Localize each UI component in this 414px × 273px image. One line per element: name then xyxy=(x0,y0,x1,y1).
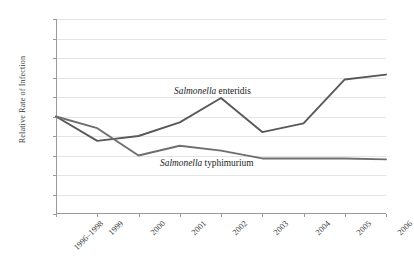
series-label-salmonella-typhimurium: Salmonella typhimurium xyxy=(160,158,254,168)
y-axis-title: Relative Rate of Infection xyxy=(18,20,27,180)
plot-area: 21.81.61.41.210.80.60.40.20 1996–1998199… xyxy=(56,19,386,214)
x-tick-mark xyxy=(97,214,98,217)
x-tick-label: 1996–1998 xyxy=(72,219,105,252)
series-line-salmonella-enteridis xyxy=(56,75,386,141)
x-tick-label: 2001 xyxy=(190,219,208,237)
x-tick-mark xyxy=(180,214,181,217)
x-tick-label: 2004 xyxy=(313,219,331,237)
x-tick-mark xyxy=(262,214,263,217)
x-tick-mark xyxy=(139,214,140,217)
x-tick-mark xyxy=(386,214,387,217)
x-tick-mark xyxy=(345,214,346,217)
x-tick-label: 2002 xyxy=(231,219,249,237)
x-tick-mark xyxy=(56,214,57,217)
series-label-salmonella-enteridis: Salmonella enteridis xyxy=(174,86,251,96)
x-tick-label: 2005 xyxy=(355,219,373,237)
x-tick-label: 2003 xyxy=(272,219,290,237)
x-tick-label: 2000 xyxy=(148,219,166,237)
series-line-salmonella-typhimurium xyxy=(56,117,386,160)
series-lines xyxy=(56,19,386,214)
x-tick-label: 1999 xyxy=(107,219,125,237)
x-tick-mark xyxy=(304,214,305,217)
x-tick-label: 2006 xyxy=(396,219,414,237)
x-tick-mark xyxy=(221,214,222,217)
